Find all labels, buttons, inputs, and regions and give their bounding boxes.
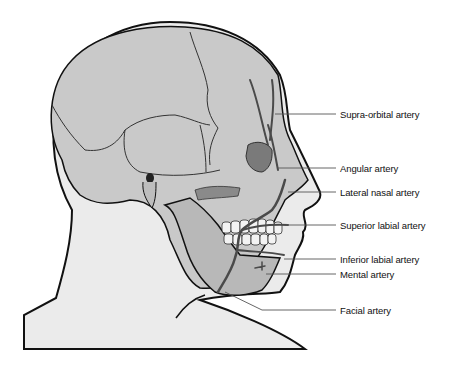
ear-canal xyxy=(146,173,154,183)
label-inferior-labial-artery: Inferior labial artery xyxy=(340,254,419,265)
label-angular-artery: Angular artery xyxy=(340,163,398,174)
label-mental-artery: Mental artery xyxy=(340,269,394,280)
anatomy-diagram: Supra-orbital artery Angular artery Late… xyxy=(0,0,450,371)
label-supra-orbital-artery: Supra-orbital artery xyxy=(340,109,419,120)
label-lateral-nasal-artery: Lateral nasal artery xyxy=(340,187,419,198)
label-facial-artery: Facial artery xyxy=(340,305,391,316)
label-superior-labial-artery: Superior labial artery xyxy=(340,220,425,231)
